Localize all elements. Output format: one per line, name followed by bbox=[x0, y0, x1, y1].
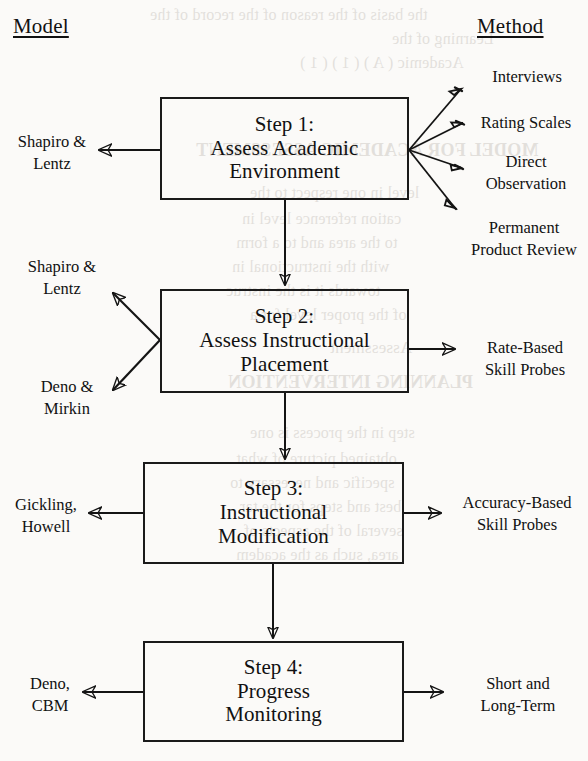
method-1-line-1: Interviews bbox=[470, 66, 584, 88]
method-label-direct-observation: Direct Observation bbox=[466, 151, 586, 195]
method-6-line-2: Skill Probes bbox=[448, 514, 586, 536]
step-1-line-2: Assess Academic bbox=[211, 137, 359, 161]
method-5-line-2: Skill Probes bbox=[466, 359, 584, 381]
model-label-shapiro-lentz-2: Shapiro & Lentz bbox=[16, 256, 108, 300]
method-7-line-2: Long-Term bbox=[458, 695, 578, 717]
model-label-deno-cbm: Deno, CBM bbox=[20, 673, 80, 717]
model-2-line-2: Lentz bbox=[16, 278, 108, 300]
figure-canvas: the basis of the reason of the record of… bbox=[0, 0, 588, 761]
method-label-rating-scales: Rating Scales bbox=[464, 112, 588, 134]
model-3-line-2: Mirkin bbox=[26, 398, 108, 420]
step-2-line-3: Placement bbox=[240, 353, 328, 377]
model-4-line-1: Gickling, bbox=[4, 494, 88, 516]
model-label-gickling-howell: Gickling, Howell bbox=[4, 494, 88, 538]
model-2-line-1: Shapiro & bbox=[16, 256, 108, 278]
step-4-line-1: Step 4: bbox=[244, 656, 304, 680]
model-1-line-1: Shapiro & bbox=[6, 131, 98, 153]
model-label-shapiro-lentz-1: Shapiro & Lentz bbox=[6, 131, 98, 175]
model-1-line-2: Lentz bbox=[6, 153, 98, 175]
step-2-line-1: Step 2: bbox=[255, 305, 315, 329]
step-4-line-3: Monitoring bbox=[225, 703, 322, 727]
flowchart: Model Method Step 1: Assess Academic Env… bbox=[0, 0, 588, 761]
method-label-interviews: Interviews bbox=[470, 66, 584, 88]
method-5-line-1: Rate-Based bbox=[466, 337, 584, 359]
step-2-line-2: Assess Instructional bbox=[199, 329, 370, 353]
method-label-short-long-term: Short and Long-Term bbox=[458, 673, 578, 717]
method-3-line-1: Direct bbox=[466, 151, 586, 173]
model-4-line-2: Howell bbox=[4, 516, 88, 538]
column-header-method: Method bbox=[477, 14, 544, 39]
method-label-permanent-product-review: Permanent Product Review bbox=[460, 217, 588, 261]
method-2-line-1: Rating Scales bbox=[464, 112, 588, 134]
method-label-rate-based-skill-probes: Rate-Based Skill Probes bbox=[466, 337, 584, 381]
step-box-2[interactable]: Step 2: Assess Instructional Placement bbox=[160, 289, 409, 393]
step-3-line-1: Step 3: bbox=[244, 477, 304, 501]
column-header-model: Model bbox=[13, 14, 69, 39]
model-5-line-2: CBM bbox=[20, 695, 80, 717]
step-box-4[interactable]: Step 4: Progress Monitoring bbox=[143, 641, 404, 742]
model-3-line-1: Deno & bbox=[26, 376, 108, 398]
method-6-line-1: Accuracy-Based bbox=[448, 492, 586, 514]
step-3-line-2: Instructional bbox=[220, 501, 327, 525]
method-3-line-2: Observation bbox=[466, 173, 586, 195]
method-7-line-1: Short and bbox=[458, 673, 578, 695]
step-3-line-3: Modification bbox=[218, 525, 329, 549]
step-4-line-2: Progress bbox=[237, 680, 310, 704]
method-4-line-1: Permanent bbox=[460, 217, 588, 239]
method-4-line-2: Product Review bbox=[460, 239, 588, 261]
model-label-deno-mirkin: Deno & Mirkin bbox=[26, 376, 108, 420]
method-label-accuracy-based-skill-probes: Accuracy-Based Skill Probes bbox=[448, 492, 586, 536]
step-1-line-3: Environment bbox=[229, 160, 340, 184]
step-box-3[interactable]: Step 3: Instructional Modification bbox=[143, 462, 404, 564]
model-5-line-1: Deno, bbox=[20, 673, 80, 695]
step-1-line-1: Step 1: bbox=[255, 113, 315, 137]
step-box-1[interactable]: Step 1: Assess Academic Environment bbox=[160, 97, 409, 200]
